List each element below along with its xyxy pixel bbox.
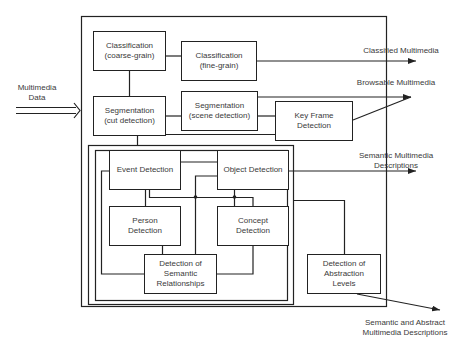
segmentation-scene-box: Segmentation (scene detection)	[181, 91, 258, 131]
output-label-text: Multimedia Descriptions	[351, 328, 459, 338]
abstraction-levels-box: Detection of Abstraction Levels	[307, 254, 381, 294]
box-label: Levels	[332, 279, 355, 289]
classification-fine-box: Classification (fine-grain)	[181, 41, 257, 81]
output-label-text: Browsable Multimedia	[340, 78, 452, 88]
segmentation-cut-box: Segmentation (cut detection)	[93, 96, 166, 136]
event-detection-box: Event Detection	[109, 150, 181, 190]
input-label-line1: Multimedia	[8, 83, 66, 93]
box-label: Detection of	[323, 259, 366, 269]
semantic-relationships-box: Detection of Semantic Relationships	[144, 254, 217, 294]
box-label: Classification	[195, 51, 242, 61]
input-label: Multimedia Data	[8, 83, 66, 103]
box-label: Event Detection	[117, 165, 173, 175]
output-label-text: Descriptions	[340, 161, 452, 171]
person-detection-box: Person Detection	[109, 206, 181, 246]
box-label: Segmentation	[195, 101, 244, 111]
output-label-text: Semantic Multimedia	[340, 151, 452, 161]
output-abstract-label: Semantic and Abstract Multimedia Descrip…	[351, 318, 459, 338]
box-label: Semantic	[164, 269, 197, 279]
box-label: Classification	[106, 41, 153, 51]
output-label-text: Semantic and Abstract	[351, 318, 459, 328]
box-label: Key Frame	[294, 111, 333, 121]
box-label: Concept	[238, 216, 268, 226]
box-label: Detection	[297, 121, 331, 131]
output-label-text: Classified Multimedia	[345, 46, 457, 56]
box-label: (coarse-grain)	[105, 51, 155, 61]
box-label: Segmentation	[105, 106, 154, 116]
output-semantic-label: Semantic Multimedia Descriptions	[340, 151, 452, 171]
output-classified-label: Classified Multimedia	[345, 46, 457, 56]
box-label: Person	[132, 216, 157, 226]
box-label: Relationships	[156, 279, 204, 289]
box-label: Detection	[128, 226, 162, 236]
box-label: Detection of	[159, 259, 202, 269]
box-label: (cut detection)	[104, 116, 155, 126]
input-label-line2: Data	[8, 93, 66, 103]
key-frame-detection-box: Key Frame Detection	[275, 101, 353, 141]
concept-detection-box: Concept Detection	[217, 206, 289, 246]
output-browsable-label: Browsable Multimedia	[340, 78, 452, 88]
box-label: (fine-grain)	[200, 61, 239, 71]
box-label: Detection	[236, 226, 270, 236]
classification-coarse-box: Classification (coarse-grain)	[93, 31, 166, 71]
box-label: Abstraction	[324, 269, 364, 279]
box-label: Object Detection	[223, 165, 282, 175]
object-detection-box: Object Detection	[217, 150, 289, 190]
box-label: (scene detection)	[189, 111, 250, 121]
